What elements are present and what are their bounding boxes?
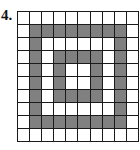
grid-cell xyxy=(90,90,102,103)
grid-cell xyxy=(126,64,138,77)
grid-row xyxy=(18,77,139,90)
grid-cell xyxy=(78,12,90,25)
grid-cell xyxy=(126,38,138,51)
figure-number-label: 4. xyxy=(1,8,12,23)
grid-cell xyxy=(126,51,138,64)
grid-cell xyxy=(30,38,42,51)
grid-cell xyxy=(42,90,54,103)
grid-cell xyxy=(78,38,90,51)
grid-body xyxy=(18,12,139,142)
grid-cell xyxy=(114,77,126,90)
figure-container: 4. xyxy=(0,0,140,150)
grid-cell xyxy=(78,77,90,90)
grid-cell xyxy=(114,25,126,38)
grid-row xyxy=(18,25,139,38)
grid-cell xyxy=(78,51,90,64)
grid-cell xyxy=(126,90,138,103)
grid-cell xyxy=(18,116,30,129)
grid-cell xyxy=(30,116,42,129)
grid-cell xyxy=(42,77,54,90)
grid-cell xyxy=(30,90,42,103)
grid-cell xyxy=(102,64,114,77)
grid-row xyxy=(18,116,139,129)
grid-cell xyxy=(78,129,90,142)
grid-cell xyxy=(114,12,126,25)
grid-cell xyxy=(30,129,42,142)
grid-cell xyxy=(54,103,66,116)
grid-cell xyxy=(102,38,114,51)
grid-cell xyxy=(54,77,66,90)
grid-cell xyxy=(102,116,114,129)
grid-row xyxy=(18,64,139,77)
grid-cell xyxy=(66,12,78,25)
grid-cell xyxy=(54,51,66,64)
grid-row xyxy=(18,103,139,116)
grid-row xyxy=(18,129,139,142)
grid-cell xyxy=(42,12,54,25)
grid-cell xyxy=(90,51,102,64)
grid-cell xyxy=(78,25,90,38)
grid-cell xyxy=(90,129,102,142)
grid-cell xyxy=(54,38,66,51)
grid-cell xyxy=(42,51,54,64)
grid-cell xyxy=(90,25,102,38)
grid-cell xyxy=(90,12,102,25)
grid-cell xyxy=(102,129,114,142)
grid-cell xyxy=(78,103,90,116)
grid-row xyxy=(18,51,139,64)
grid-cell xyxy=(114,103,126,116)
grid-cell xyxy=(66,64,78,77)
grid-cell xyxy=(42,25,54,38)
grid-cell xyxy=(42,103,54,116)
grid-cell xyxy=(126,25,138,38)
grid-cell xyxy=(18,12,30,25)
grid-cell xyxy=(30,77,42,90)
grid-cell xyxy=(90,64,102,77)
grid-cell xyxy=(18,25,30,38)
grid-cell xyxy=(54,116,66,129)
grid-cell xyxy=(90,38,102,51)
grid-cell xyxy=(102,25,114,38)
grid-cell xyxy=(30,103,42,116)
grid-cell xyxy=(54,129,66,142)
grid-cell xyxy=(30,25,42,38)
grid-cell xyxy=(66,25,78,38)
grid-cell xyxy=(18,129,30,142)
grid-cell xyxy=(114,64,126,77)
grid-cell xyxy=(90,103,102,116)
grid-cell xyxy=(30,51,42,64)
grid-cell xyxy=(18,90,30,103)
grid-cell xyxy=(114,116,126,129)
grid-cell xyxy=(102,103,114,116)
grid-cell xyxy=(114,129,126,142)
grid-cell xyxy=(66,38,78,51)
grid-cell xyxy=(66,116,78,129)
grid-cell xyxy=(90,116,102,129)
grid-cell xyxy=(42,64,54,77)
grid-cell xyxy=(54,12,66,25)
grid-cell xyxy=(18,77,30,90)
grid-cell xyxy=(66,129,78,142)
grid-container xyxy=(17,11,128,131)
grid-row xyxy=(18,90,139,103)
grid-cell xyxy=(126,129,138,142)
grid-cell xyxy=(66,51,78,64)
grid-cell xyxy=(126,116,138,129)
grid-cell xyxy=(54,90,66,103)
pattern-grid xyxy=(17,11,139,142)
grid-cell xyxy=(66,77,78,90)
grid-cell xyxy=(114,90,126,103)
grid-row xyxy=(18,38,139,51)
grid-cell xyxy=(114,51,126,64)
grid-cell xyxy=(54,25,66,38)
grid-cell xyxy=(114,38,126,51)
grid-cell xyxy=(78,90,90,103)
grid-cell xyxy=(42,116,54,129)
grid-cell xyxy=(66,103,78,116)
grid-cell xyxy=(18,64,30,77)
grid-cell xyxy=(126,77,138,90)
grid-cell xyxy=(18,51,30,64)
grid-cell xyxy=(126,12,138,25)
grid-cell xyxy=(54,64,66,77)
grid-cell xyxy=(30,64,42,77)
